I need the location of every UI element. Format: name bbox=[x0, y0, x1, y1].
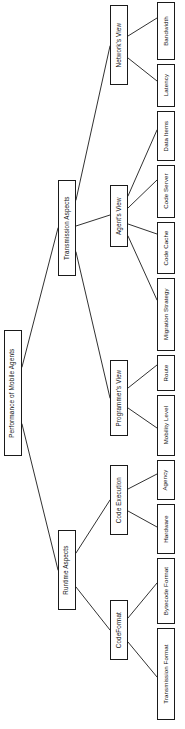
node-layer: Performance of Mobile Agents Transmissio… bbox=[0, 0, 185, 729]
node-programmers-view-label: Programmer's View bbox=[116, 370, 122, 427]
node-networks-view-label: Network's View bbox=[116, 23, 122, 68]
node-code-server-label: Code Server bbox=[163, 174, 169, 210]
node-root-label: Performance of Mobile Agents bbox=[10, 348, 16, 437]
node-transmission-format[interactable]: Transmission Format bbox=[157, 628, 175, 720]
node-code-cache-label: Code Cache bbox=[163, 230, 169, 265]
node-code-cache[interactable]: Code Cache bbox=[157, 222, 175, 274]
node-transmission-aspects[interactable]: Transmission Aspects bbox=[58, 180, 76, 276]
node-root[interactable]: Performance of Mobile Agents bbox=[4, 330, 22, 456]
node-bandwidth-label: Bandwidth bbox=[163, 16, 169, 46]
node-code-format-label: CodeFormat bbox=[116, 612, 122, 648]
node-agency[interactable]: Agency bbox=[157, 460, 175, 500]
node-route-label: Route bbox=[163, 365, 169, 382]
node-agency-label: Agency bbox=[163, 469, 169, 490]
node-code-execution-label: Code Execution bbox=[116, 477, 122, 523]
node-runtime-aspects[interactable]: Runtime Aspects bbox=[58, 530, 76, 610]
node-code-server[interactable]: Code Server bbox=[157, 165, 175, 218]
node-code-execution[interactable]: Code Execution bbox=[110, 465, 128, 535]
node-route[interactable]: Route bbox=[157, 355, 175, 391]
node-bytecode-format[interactable]: Bytecode Format bbox=[157, 558, 175, 624]
node-latency-label: Latency bbox=[163, 74, 169, 96]
node-migration-strategy-label: Migration Strategy bbox=[163, 289, 169, 341]
node-agents-view-label: Agent's View bbox=[116, 197, 122, 235]
node-data-items[interactable]: Data Items bbox=[157, 111, 175, 161]
node-mobility-level[interactable]: Mobility Level bbox=[157, 395, 175, 456]
node-hardware-label: Hardware bbox=[163, 515, 169, 542]
node-agents-view[interactable]: Agent's View bbox=[110, 185, 128, 247]
node-runtime-aspects-label: Runtime Aspects bbox=[64, 545, 70, 594]
node-hardware[interactable]: Hardware bbox=[157, 504, 175, 554]
node-transmission-format-label: Transmission Format bbox=[163, 644, 169, 703]
node-mobility-level-label: Mobility Level bbox=[163, 406, 169, 445]
node-code-format[interactable]: CodeFormat bbox=[110, 600, 128, 660]
node-data-items-label: Data Items bbox=[163, 121, 169, 152]
node-networks-view[interactable]: Network's View bbox=[110, 5, 128, 85]
node-bandwidth[interactable]: Bandwidth bbox=[157, 2, 175, 60]
node-latency[interactable]: Latency bbox=[157, 64, 175, 107]
node-migration-strategy[interactable]: Migration Strategy bbox=[157, 278, 175, 351]
node-programmers-view[interactable]: Programmer's View bbox=[110, 360, 128, 436]
tree-diagram: Performance of Mobile Agents Transmissio… bbox=[0, 0, 185, 729]
node-transmission-aspects-label: Transmission Aspects bbox=[64, 196, 70, 260]
node-bytecode-format-label: Bytecode Format bbox=[163, 567, 169, 615]
